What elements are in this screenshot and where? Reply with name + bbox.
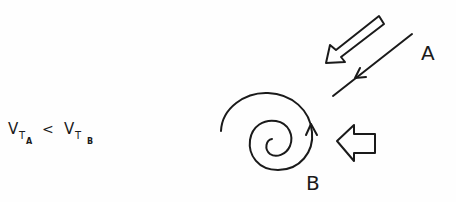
rhs-symbol: V [64, 120, 75, 138]
diagram-drawing: V T A < V T B A B [0, 0, 456, 202]
diagram-canvas: V T A < V T B A B [0, 0, 456, 202]
hollow-arrow-a-icon [326, 16, 384, 63]
hollow-arrow-b-icon [337, 125, 375, 161]
trajectory-b [221, 93, 317, 170]
trajectory-b-spiral [221, 93, 312, 170]
label-a: A [421, 41, 435, 65]
label-b: B [306, 171, 320, 195]
rhs-sub: T [74, 130, 82, 141]
trajectory-a-arrowhead-icon [355, 68, 366, 78]
relation-operator: < [42, 121, 54, 137]
velocity-relation: V T A < V T B [8, 120, 93, 146]
lhs-sub: T [18, 130, 26, 141]
rhs-subsub: B [87, 137, 93, 146]
lhs-subsub: A [26, 137, 33, 146]
lhs-symbol: V [8, 120, 19, 138]
